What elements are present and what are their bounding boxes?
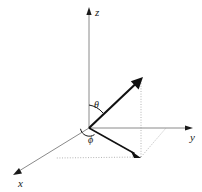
guide-lines xyxy=(56,78,166,158)
spherical-coordinate-diagram: z y x θ ϕ xyxy=(0,0,202,192)
x-axis-arrowhead xyxy=(13,168,22,175)
xy-projection-arrowhead xyxy=(131,151,142,158)
y-axis-arrowhead xyxy=(185,125,193,130)
xy-projection-vector xyxy=(89,128,141,158)
z-axis-label: z xyxy=(94,6,100,18)
x-axis-projection-guide xyxy=(56,157,141,158)
xy-projection-line xyxy=(89,128,135,154)
axes-group xyxy=(13,7,193,175)
phi-label: ϕ xyxy=(88,134,93,145)
labels-group: z y x θ ϕ xyxy=(17,6,195,189)
x-axis xyxy=(13,128,89,175)
z-axis xyxy=(86,7,91,128)
z-axis-arrowhead xyxy=(86,7,91,15)
y-axis-projection-guide xyxy=(141,128,166,157)
theta-label: θ xyxy=(94,99,99,110)
y-axis-label: y xyxy=(189,131,195,143)
y-axis xyxy=(89,125,193,130)
x-axis-label: x xyxy=(17,177,23,189)
x-axis-line xyxy=(19,128,89,171)
spherical-coordinate-figure: z y x θ ϕ xyxy=(0,0,202,192)
